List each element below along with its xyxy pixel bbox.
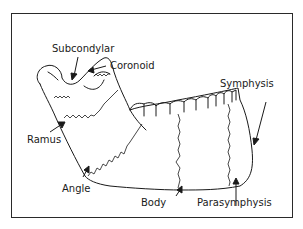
label-parasymphysis: Parasymphysis (197, 198, 272, 208)
fracture-body (176, 114, 180, 188)
label-ramus: Ramus (27, 135, 61, 145)
label-body: Body (141, 198, 166, 208)
fracture-angle (88, 124, 142, 176)
label-subcondylar: Subcondylar (52, 44, 114, 54)
label-angle: Angle (62, 184, 90, 194)
mandible-illustration (0, 0, 303, 229)
fracture-ramus (64, 90, 118, 118)
fracture-subcondylar (54, 96, 70, 98)
label-coronoid: Coronoid (110, 61, 155, 71)
label-symphysis: Symphysis (220, 79, 274, 89)
teeth (130, 90, 236, 110)
fracture-parasymphysis (228, 104, 230, 186)
fracture-coronoid (94, 74, 110, 76)
